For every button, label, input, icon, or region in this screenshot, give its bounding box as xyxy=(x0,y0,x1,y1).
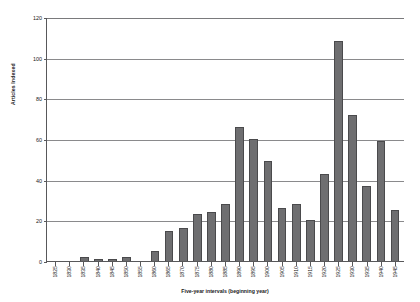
x-label-slot: 1915 xyxy=(303,266,317,286)
y-tick-mark-100 xyxy=(44,59,47,60)
bar-1900 xyxy=(264,161,273,261)
x-axis-tick-labels: 1825183018351840184518501855186018651870… xyxy=(46,266,404,286)
x-tick-label-1930: 1930 xyxy=(349,266,355,278)
x-label-slot: 1830 xyxy=(62,266,76,286)
x-label-slot: 1825 xyxy=(48,266,62,286)
bar-1905 xyxy=(278,208,287,261)
bar-slot xyxy=(332,18,346,261)
y-tick-label-120: 120 xyxy=(16,15,42,21)
y-tick-label-20: 20 xyxy=(16,218,42,224)
y-tick-label-0: 0 xyxy=(16,259,42,265)
bar-slot xyxy=(360,18,374,261)
x-tick-label-1830: 1830 xyxy=(66,266,72,278)
x-label-slot: 1945 xyxy=(388,266,402,286)
bar-slot xyxy=(162,18,176,261)
x-label-slot: 1865 xyxy=(161,266,175,286)
x-tick-label-1880: 1880 xyxy=(208,266,214,278)
bar-1890 xyxy=(235,127,244,261)
x-label-slot: 1870 xyxy=(175,266,189,286)
bar-1910 xyxy=(292,204,301,261)
y-tick-mark-40 xyxy=(44,181,47,182)
x-tick-label-1940: 1940 xyxy=(378,266,384,278)
bar-slot xyxy=(346,18,360,261)
x-label-slot: 1860 xyxy=(147,266,161,286)
y-tick-mark-60 xyxy=(44,140,47,141)
bar-slot xyxy=(63,18,77,261)
bar-chart: Articles Indexed 020406080100120 1825183… xyxy=(0,0,420,302)
x-tick-label-1910: 1910 xyxy=(293,266,299,278)
bar-slot xyxy=(176,18,190,261)
x-label-slot: 1940 xyxy=(374,266,388,286)
bar-1915 xyxy=(306,220,315,261)
x-tick-label-1890: 1890 xyxy=(236,266,242,278)
y-tick-label-60: 60 xyxy=(16,137,42,143)
y-tick-label-40: 40 xyxy=(16,178,42,184)
bar-slot xyxy=(91,18,105,261)
bar-slot xyxy=(190,18,204,261)
y-tick-mark-20 xyxy=(44,221,47,222)
bar-slot xyxy=(204,18,218,261)
x-tick-label-1885: 1885 xyxy=(222,266,228,278)
bar-1945 xyxy=(391,210,400,261)
bar-1895 xyxy=(249,139,258,261)
x-label-slot: 1850 xyxy=(119,266,133,286)
bar-1835 xyxy=(80,257,89,261)
x-label-slot: 1840 xyxy=(90,266,104,286)
x-axis-title: Five-year intervals (beginning year) xyxy=(46,288,404,294)
x-tick-label-1865: 1865 xyxy=(165,266,171,278)
x-tick-label-1840: 1840 xyxy=(95,266,101,278)
bar-1850 xyxy=(122,257,131,261)
bar-slot xyxy=(77,18,91,261)
x-label-slot: 1905 xyxy=(275,266,289,286)
bar-1935 xyxy=(362,186,371,261)
bar-slot xyxy=(148,18,162,261)
x-tick-label-1900: 1900 xyxy=(264,266,270,278)
x-tick-label-1925: 1925 xyxy=(335,266,341,278)
x-label-slot: 1885 xyxy=(218,266,232,286)
x-tick-label-1945: 1945 xyxy=(392,266,398,278)
bar-slot xyxy=(134,18,148,261)
bar-slot xyxy=(317,18,331,261)
plot-area xyxy=(46,18,404,262)
x-tick-label-1845: 1845 xyxy=(109,266,115,278)
y-tick-mark-80 xyxy=(44,99,47,100)
bar-slot xyxy=(120,18,134,261)
bar-1880 xyxy=(207,212,216,261)
x-tick-label-1855: 1855 xyxy=(137,266,143,278)
x-tick-label-1850: 1850 xyxy=(123,266,129,278)
x-label-slot: 1910 xyxy=(289,266,303,286)
x-label-slot: 1890 xyxy=(232,266,246,286)
bar-1870 xyxy=(179,228,188,261)
bar-slot xyxy=(247,18,261,261)
x-label-slot: 1925 xyxy=(331,266,345,286)
x-tick-label-1905: 1905 xyxy=(279,266,285,278)
x-tick-label-1920: 1920 xyxy=(321,266,327,278)
x-tick-label-1875: 1875 xyxy=(194,266,200,278)
x-tick-label-1935: 1935 xyxy=(364,266,370,278)
x-label-slot: 1935 xyxy=(359,266,373,286)
bar-1875 xyxy=(193,214,202,261)
bar-series xyxy=(47,18,404,261)
x-label-slot: 1845 xyxy=(105,266,119,286)
bar-1920 xyxy=(320,174,329,261)
x-label-slot: 1835 xyxy=(76,266,90,286)
x-label-slot: 1930 xyxy=(345,266,359,286)
bar-slot xyxy=(374,18,388,261)
x-tick-label-1895: 1895 xyxy=(250,266,256,278)
bar-slot xyxy=(219,18,233,261)
bar-slot xyxy=(303,18,317,261)
x-label-slot: 1875 xyxy=(190,266,204,286)
x-label-slot: 1855 xyxy=(133,266,147,286)
bar-slot xyxy=(388,18,402,261)
bar-slot xyxy=(106,18,120,261)
bar-slot xyxy=(233,18,247,261)
y-axis-title: Articles Indexed xyxy=(10,25,16,105)
bar-1840 xyxy=(94,259,103,261)
x-label-slot: 1895 xyxy=(246,266,260,286)
bar-1845 xyxy=(108,259,117,261)
bar-slot xyxy=(261,18,275,261)
x-label-slot: 1920 xyxy=(317,266,331,286)
x-tick-label-1825: 1825 xyxy=(52,266,58,278)
bar-1930 xyxy=(348,115,357,261)
bar-1885 xyxy=(221,204,230,261)
